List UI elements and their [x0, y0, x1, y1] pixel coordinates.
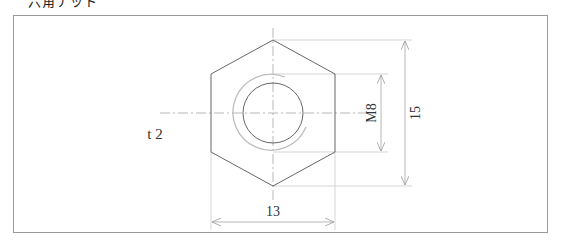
thickness-label: t 2	[147, 126, 162, 142]
dim-text-m8: M8	[364, 103, 379, 122]
thread-arc	[233, 74, 306, 150]
center-lines	[160, 28, 370, 200]
dimension-lines	[212, 41, 405, 222]
dim-text-13: 13	[266, 204, 280, 219]
dim-text-15: 15	[408, 106, 423, 120]
hex-nut-drawing: 15 M8 13 t 2	[0, 0, 561, 245]
